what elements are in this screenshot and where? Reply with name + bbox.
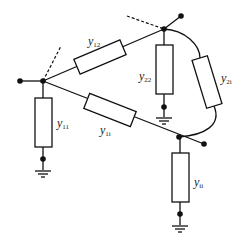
resistor-y2i [192, 56, 222, 108]
node-i-outer-terminal-dot [201, 141, 207, 147]
node-1-outer-terminal-dot [17, 78, 23, 84]
node-i-junction-dot [176, 134, 182, 140]
label-y2i: y2i [221, 72, 232, 86]
label-y22-subscript: 22 [144, 76, 151, 84]
label-yii-subscript: ii [199, 182, 203, 190]
admittance-network-diagram: y12 y22 y2i y11 y1i yii [0, 0, 243, 249]
node-2-junction-dot [161, 26, 167, 32]
y22-ground-terminal-dot [161, 104, 167, 110]
node-2-outer-terminal-dot [178, 13, 184, 19]
resistor-y11 [35, 98, 52, 147]
node-1-junction-dot [40, 78, 46, 84]
label-y1i: y1i [100, 124, 111, 138]
ground-icon [35, 171, 51, 177]
resistor-y22 [156, 45, 173, 94]
label-y11-subscript: 11 [62, 123, 69, 131]
node-2-terminal-wire [164, 16, 181, 29]
label-yii: yii [194, 176, 203, 190]
y11-ground-terminal-dot [40, 156, 46, 162]
label-y12-subscript: 12 [93, 41, 100, 49]
resistor-y1i [84, 93, 136, 126]
label-y22: y22 [139, 70, 151, 84]
label-y2i-subscript: 2i [226, 78, 231, 86]
label-y12: y12 [88, 35, 100, 49]
ground-icon [156, 118, 172, 124]
circuit-drawing [0, 0, 243, 249]
label-y11: y11 [57, 117, 69, 131]
branch-2-i-wire-lower [179, 106, 216, 137]
yii-ground-terminal-dot [177, 211, 183, 217]
label-y1i-subscript: 1i [105, 130, 110, 138]
node-2-dashed-branch [127, 16, 164, 29]
node-1-dashed-branch [43, 46, 61, 81]
ground-icon [172, 226, 188, 232]
resistor-yii [172, 153, 189, 202]
